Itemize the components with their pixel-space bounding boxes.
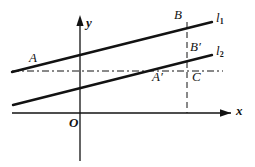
origin-label: O — [69, 116, 78, 129]
line-label-l2: l2 — [216, 44, 224, 59]
prime-mark-a: ′ — [160, 69, 163, 84]
point-label-b: B — [174, 8, 182, 21]
y-axis-label: y — [86, 16, 92, 29]
point-label-a-prime: A′ — [152, 70, 163, 83]
geometry-figure: y x O A B B′ A′ C l1 l2 — [0, 0, 255, 167]
point-label-b-prime-letter: B — [190, 39, 198, 54]
line-label-l2-subscript: 2 — [220, 50, 224, 59]
y-axis-arrowhead — [76, 15, 83, 26]
x-axis-label: x — [236, 104, 243, 117]
x-axis-arrowhead — [220, 109, 231, 116]
point-label-a: A — [29, 51, 37, 64]
x-axis — [12, 109, 231, 116]
point-label-b-prime: B′ — [190, 40, 201, 53]
prime-mark-b: ′ — [198, 39, 201, 54]
line-label-l1-subscript: 1 — [220, 17, 224, 26]
line-l2 — [13, 55, 212, 105]
point-label-c: C — [192, 70, 201, 83]
line-label-l1: l1 — [216, 11, 224, 26]
line-l1 — [12, 22, 212, 72]
point-label-a-prime-letter: A — [152, 69, 160, 84]
